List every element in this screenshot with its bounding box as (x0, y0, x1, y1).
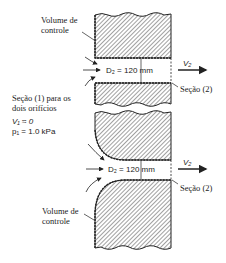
inflow-arrows-top (83, 57, 100, 86)
section2-label-top: Seção (2) (180, 85, 212, 95)
label-line: controle (41, 26, 77, 36)
label-line: dois orifícios (12, 104, 71, 114)
leader-section2-top (172, 83, 178, 87)
p1-value: p₁ = 1.0 kPa (12, 127, 55, 137)
leader-cv-bottom (84, 214, 94, 220)
bottom-wall-block (95, 180, 171, 249)
d2-label-bottom: D₂ = 120 mm (108, 165, 155, 175)
middle-wall-lower (95, 111, 171, 160)
control-volume-label-bottom: Volume de controle (42, 207, 78, 226)
section2-label-bottom: Seção (2) (180, 184, 212, 194)
d2-label-top: D₂ = 120 mm (106, 66, 153, 76)
v2-label-bottom: V₂ (183, 158, 191, 168)
section1-label: Seção (1) para os dois orifícios (12, 94, 71, 113)
middle-wall-upper (95, 83, 171, 106)
v2-label-top: V₂ (183, 59, 191, 69)
top-wall-block (95, 13, 171, 58)
inflow-arrows-bottom (86, 144, 104, 192)
leader-section2-bottom (172, 180, 178, 184)
label-line: controle (42, 217, 78, 227)
v1-value: V₁ ≈ 0 (12, 117, 33, 127)
control-volume-label-top: Volume de controle (41, 16, 77, 35)
leader-cv-top (82, 32, 94, 40)
